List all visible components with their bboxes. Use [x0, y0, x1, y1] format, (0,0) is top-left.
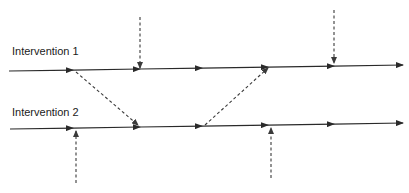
timelines-group [9, 65, 403, 129]
cross-link-1-to-2-arrow [76, 72, 138, 125]
timeline-segment-arrow [140, 68, 202, 69]
intervention-2-label: Intervention 2 [12, 106, 79, 118]
diagram-svg [0, 0, 409, 193]
timeline-segment-arrow [73, 127, 140, 128]
timeline-segment-arrow [268, 124, 334, 125]
intervention-1-label: Intervention 1 [12, 45, 79, 57]
timeline-segment-arrow [202, 125, 268, 126]
timeline-segment-arrow [10, 128, 73, 129]
timeline-1 [9, 65, 403, 71]
timeline-segment-arrow [334, 123, 403, 124]
timeline-segment-arrow [202, 67, 268, 68]
timeline-segment-arrow [268, 66, 334, 67]
diagram-canvas: Intervention 1 Intervention 2 [0, 0, 409, 193]
cross-link-2-to-1-arrow [205, 68, 268, 125]
timeline-segment-arrow [73, 69, 140, 70]
dashed-arrows-group [76, 10, 334, 183]
timeline-segment-arrow [9, 70, 73, 71]
timeline-segment-arrow [334, 65, 403, 66]
timeline-segment-arrow [140, 126, 202, 127]
